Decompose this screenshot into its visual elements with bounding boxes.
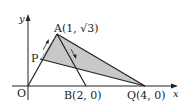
point-p-label: P	[31, 52, 39, 65]
coordinate-diagram: y x O A(1, √3) P B(2, 0) Q(4, 0)	[0, 0, 189, 108]
point-a-label: A(1, √3)	[53, 22, 99, 35]
shaded-triangle-apq	[40, 34, 145, 86]
y-axis-label: y	[18, 13, 25, 24]
x-axis-label: x	[173, 88, 179, 99]
arrow-on-oa-head-icon	[46, 39, 50, 44]
origin-label: O	[17, 87, 26, 100]
point-q-label: Q(4, 0)	[127, 89, 166, 102]
y-axis-arrow-icon	[26, 14, 31, 21]
point-b-label: B(2, 0)	[64, 89, 102, 102]
diagram-svg: y x O A(1, √3) P B(2, 0) Q(4, 0)	[0, 0, 189, 108]
